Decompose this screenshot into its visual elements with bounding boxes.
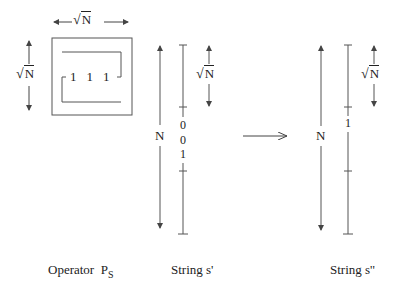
- string-s-double-prime-length-label: N: [316, 129, 325, 142]
- sqrt-icon: √: [361, 66, 369, 81]
- string-s-prime-segment-label: √N: [195, 67, 215, 81]
- string-s-prime-bit: 0: [179, 119, 187, 131]
- string-s-prime-caption: String s': [171, 263, 213, 276]
- string-s-double-prime-segment-label: √N: [360, 67, 380, 81]
- sqrt-icon: √: [196, 66, 204, 81]
- string-s-prime-length-label: N: [155, 129, 164, 142]
- sqrt-icon: √: [16, 66, 24, 81]
- sqrt-icon: √: [73, 12, 81, 27]
- operator-cell: 1: [70, 70, 77, 83]
- operator-cell: 1: [87, 70, 94, 83]
- operator-cells: 1 1 1: [70, 70, 110, 83]
- diagram-canvas: [0, 0, 398, 294]
- operator-height-label: √N: [15, 67, 35, 81]
- string-s-prime-bit: 0: [179, 134, 187, 146]
- string-s-double-prime-bit: 1: [344, 117, 352, 129]
- string-s-prime-bit: 1: [179, 148, 187, 160]
- operator-caption: Operator PS: [48, 263, 114, 280]
- operator-width-label: √N: [72, 13, 92, 27]
- string-s-double-prime-caption: String s'': [330, 263, 375, 276]
- operator-cell: 1: [103, 70, 110, 83]
